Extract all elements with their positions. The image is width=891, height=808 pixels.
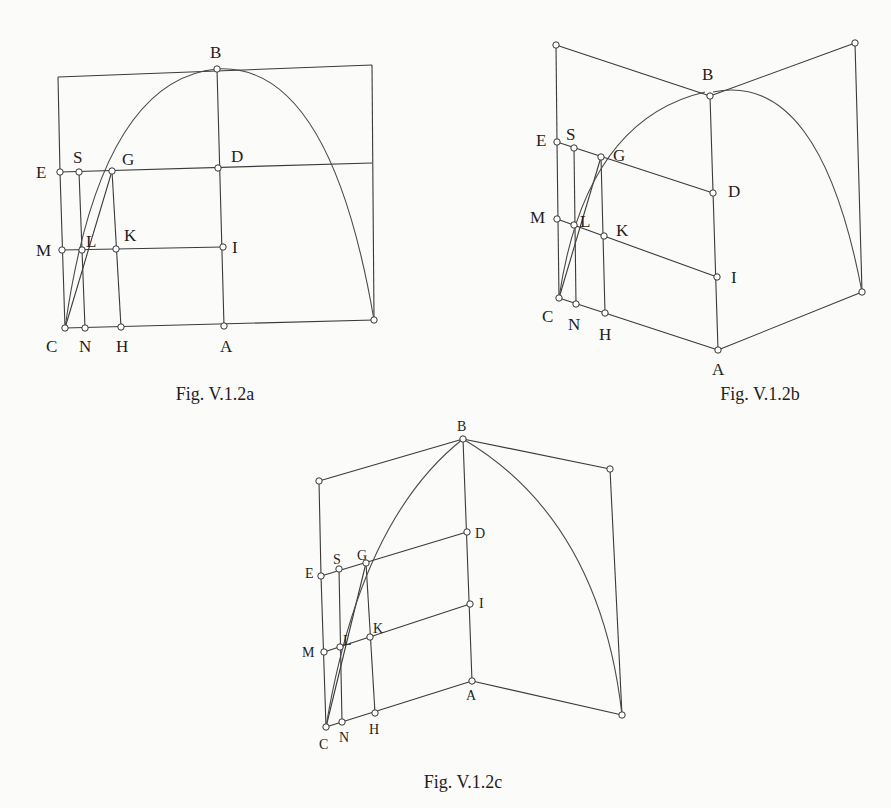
point-marker-s — [76, 169, 82, 175]
point-label-m: M — [36, 241, 51, 260]
point-marker — [607, 466, 613, 472]
construction-line — [58, 77, 60, 172]
point-marker-c — [323, 724, 329, 730]
point-marker-h — [372, 710, 378, 716]
point-marker-m — [554, 216, 560, 222]
figure-caption: Fig. V.1.2b — [720, 384, 799, 404]
point-label-i: I — [232, 238, 238, 257]
point-marker-g — [598, 154, 604, 160]
point-marker-k — [113, 246, 119, 252]
figure-v-1-2a: BESGDMLKICNHAFig. V.1.2a — [36, 43, 377, 404]
point-label-c: C — [542, 307, 553, 326]
point-label-l: L — [86, 232, 96, 251]
point-marker-n — [339, 719, 345, 725]
point-label-d: D — [728, 182, 740, 201]
point-marker-i — [714, 274, 720, 280]
construction-line — [610, 469, 622, 715]
point-marker-i — [220, 244, 226, 250]
construction-line — [472, 681, 622, 715]
construction-line — [710, 96, 718, 350]
point-label-m: M — [530, 208, 545, 227]
construction-line — [557, 142, 713, 193]
point-label-c: C — [319, 737, 328, 752]
figure-v-1-2b: BESGDMLKICNHAFig. V.1.2b — [530, 40, 865, 404]
point-marker — [316, 478, 322, 484]
figure-v-1-2c: BDESGIKLMAHNCFig. V.1.2c — [302, 419, 625, 792]
point-label-b: B — [210, 43, 221, 62]
point-marker — [852, 40, 858, 46]
construction-line — [217, 69, 224, 326]
construction-line — [321, 532, 467, 576]
point-label-l: L — [580, 212, 590, 231]
point-marker-m — [59, 247, 65, 253]
construction-line — [319, 439, 463, 481]
construction-line — [65, 320, 374, 328]
figure-caption: Fig. V.1.2a — [176, 384, 254, 404]
point-label-k: K — [373, 621, 383, 636]
construction-line — [718, 292, 862, 350]
construction-line — [463, 439, 610, 469]
point-label-a: A — [466, 688, 477, 703]
point-label-n: N — [568, 315, 580, 334]
point-marker-e — [57, 169, 63, 175]
point-marker-c — [62, 325, 68, 331]
point-label-i: I — [479, 596, 484, 611]
point-marker-k — [601, 233, 607, 239]
point-marker-a — [221, 323, 227, 329]
point-marker-s — [571, 145, 577, 151]
point-label-s: S — [333, 552, 341, 567]
point-marker — [619, 712, 625, 718]
point-marker-e — [554, 139, 560, 145]
figure-canvas: BESGDMLKICNHAFig. V.1.2a BESGDMLKICNHAFi… — [0, 0, 891, 808]
construction-line — [559, 298, 718, 350]
point-label-g: G — [613, 146, 625, 165]
point-marker-d — [215, 165, 221, 171]
point-label-l: L — [343, 633, 352, 648]
point-label-s: S — [566, 125, 575, 144]
point-label-a: A — [712, 360, 725, 379]
point-marker-c — [556, 295, 562, 301]
construction-line — [319, 481, 321, 576]
point-label-b: B — [457, 419, 466, 434]
point-label-a: A — [220, 337, 233, 356]
construction-line — [372, 65, 374, 320]
point-label-e: E — [536, 131, 546, 150]
point-label-h: H — [116, 337, 128, 356]
point-label-e: E — [36, 163, 46, 182]
point-marker-g — [109, 168, 115, 174]
point-marker-n — [82, 325, 88, 331]
point-marker-b — [214, 66, 220, 72]
point-marker-b — [707, 93, 713, 99]
point-label-i: I — [731, 268, 737, 287]
point-label-n: N — [339, 730, 349, 745]
point-label-d: D — [475, 526, 485, 541]
point-label-h: H — [599, 325, 611, 344]
point-label-c: C — [46, 337, 57, 356]
point-marker-i — [467, 601, 473, 607]
point-label-d: D — [231, 147, 243, 166]
point-marker-d — [464, 529, 470, 535]
parabola-curve — [65, 69, 374, 328]
construction-line — [556, 45, 557, 142]
point-marker-e — [318, 573, 324, 579]
point-label-g: G — [357, 548, 367, 563]
point-label-k: K — [616, 221, 629, 240]
point-marker-d — [710, 190, 716, 196]
point-marker-l — [79, 247, 85, 253]
point-marker — [859, 289, 865, 295]
point-marker-a — [715, 347, 721, 353]
point-marker-h — [118, 324, 124, 330]
construction-line — [710, 43, 855, 96]
point-label-e: E — [305, 566, 314, 581]
point-label-g: G — [122, 150, 134, 169]
point-label-b: B — [702, 65, 713, 84]
construction-line — [556, 45, 710, 96]
point-label-k: K — [124, 226, 137, 245]
construction-line — [855, 43, 862, 292]
point-label-n: N — [79, 337, 91, 356]
point-marker-b — [460, 436, 466, 442]
point-marker — [553, 42, 559, 48]
construction-line — [463, 439, 472, 681]
point-marker-n — [573, 301, 579, 307]
point-label-s: S — [73, 148, 82, 167]
